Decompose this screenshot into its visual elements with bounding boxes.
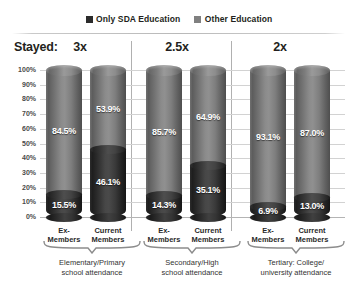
y-axis-label-60: 60% xyxy=(10,125,36,132)
bar-top-cap xyxy=(146,65,182,76)
bar-bottom-cap xyxy=(90,213,126,222)
group-brace-1 xyxy=(142,240,242,254)
x-tick-line1: Ex- xyxy=(245,226,291,235)
bar-value-only-sda-education: 35.1% xyxy=(190,185,226,195)
group-caption-line1: Tertiary: College/ xyxy=(236,258,356,268)
bar-value-only-sda-education: 15.5% xyxy=(46,200,82,210)
x-tick-line1: Current xyxy=(289,226,335,235)
bar-top-cap xyxy=(90,65,126,76)
bar-segment-seam xyxy=(46,190,82,199)
group-brace-0 xyxy=(42,240,142,254)
bar-value-other-education: 93.1% xyxy=(250,132,286,142)
group-caption-line2: university attendance xyxy=(236,268,356,278)
group-brace-2 xyxy=(246,240,346,254)
bar-value-other-education: 64.9% xyxy=(190,112,226,122)
bar-value-only-sda-education: 13.0% xyxy=(294,201,330,211)
x-tick-line1: Current xyxy=(85,226,131,235)
group-caption-line1: Secondary/High xyxy=(132,258,252,268)
bar-top-cap xyxy=(46,65,82,76)
bar-value-other-education: 84.5% xyxy=(46,126,82,136)
group-caption-1: Secondary/Highschool attendance xyxy=(132,258,252,278)
bar-value-only-sda-education: 14.3% xyxy=(146,200,182,210)
bar-segment-seam xyxy=(190,161,226,170)
y-axis-label-90: 90% xyxy=(10,81,36,88)
bar-top-cap xyxy=(190,65,226,76)
chart-root: Only SDA Education Other Education Staye… xyxy=(0,0,358,293)
bar-value-other-education: 85.7% xyxy=(146,127,182,137)
y-axis-label-30: 30% xyxy=(10,169,36,176)
y-axis-label-20: 20% xyxy=(10,184,36,191)
y-axis-label-100: 100% xyxy=(10,66,36,73)
group-caption-2: Tertiary: College/university attendance xyxy=(236,258,356,278)
bar-bottom-cap xyxy=(190,213,226,222)
bar-value-only-sda-education: 46.1% xyxy=(90,177,126,187)
bar-bottom-cap xyxy=(146,213,182,222)
group-caption-line2: school attendance xyxy=(132,268,252,278)
bar-value-only-sda-education: 6.9% xyxy=(250,206,286,216)
x-tick-line1: Ex- xyxy=(141,226,187,235)
bar-value-other-education: 53.9% xyxy=(90,104,126,114)
bar-top-cap xyxy=(250,65,286,76)
y-axis-label-50: 50% xyxy=(10,140,36,147)
y-axis-label-40: 40% xyxy=(10,154,36,161)
y-axis-label-80: 80% xyxy=(10,95,36,102)
bar-bottom-cap xyxy=(294,213,330,222)
bar-segment-seam xyxy=(90,145,126,154)
y-axis-label-0: 0% xyxy=(10,213,36,220)
bar-top-cap xyxy=(294,65,330,76)
y-axis-label-70: 70% xyxy=(10,110,36,117)
bar-bottom-cap xyxy=(46,213,82,222)
bar-value-other-education: 87.0% xyxy=(294,128,330,138)
x-tick-line1: Ex- xyxy=(41,226,87,235)
y-axis-label-10: 10% xyxy=(10,198,36,205)
x-tick-line1: Current xyxy=(185,226,231,235)
